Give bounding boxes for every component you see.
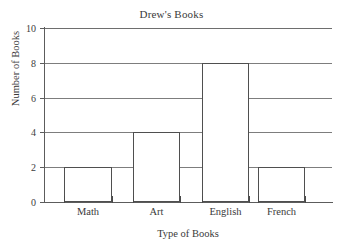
chart-title: Drew's Books: [0, 8, 343, 20]
y-axis-line: [44, 27, 45, 203]
bar-english: [202, 63, 249, 202]
x-axis-title: Type of Books: [44, 228, 332, 239]
gridline-6: [44, 98, 332, 99]
y-tick-mark-2: [40, 167, 44, 168]
y-tick-label-10: 10: [6, 23, 36, 34]
x-tick-mark-art-left: [133, 196, 134, 203]
gridline-8: [44, 63, 332, 64]
bar-chart: Drew's Books Number of Books Type of Boo…: [0, 0, 343, 248]
gridline-10: [44, 28, 332, 29]
x-tick-mark-french-left: [258, 196, 259, 203]
y-tick-mark-6: [40, 98, 44, 99]
x-tick-mark-math-right: [112, 196, 113, 203]
x-tick-mark-english-left: [202, 196, 203, 203]
y-tick-label-8: 8: [6, 57, 36, 68]
y-tick-label-2: 2: [6, 162, 36, 173]
x-category-label-math: Math: [77, 206, 99, 217]
x-category-label-english: English: [209, 206, 241, 217]
gridline-4: [44, 132, 332, 133]
y-tick-label-0: 0: [6, 197, 36, 208]
bar-art: [133, 132, 180, 202]
y-tick-mark-10: [40, 28, 44, 29]
x-tick-mark-english-right: [249, 196, 250, 203]
x-category-label-french: French: [267, 206, 296, 217]
x-tick-mark-french-right: [305, 196, 306, 203]
bar-math: [64, 167, 112, 202]
y-tick-label-6: 6: [6, 92, 36, 103]
x-category-label-art: Art: [150, 206, 164, 217]
plot-area: [44, 28, 332, 202]
y-tick-mark-0: [40, 202, 44, 203]
y-tick-mark-8: [40, 63, 44, 64]
x-tick-mark-art-right: [180, 196, 181, 203]
bar-french: [258, 167, 305, 202]
x-tick-mark-math-left: [64, 196, 65, 203]
y-tick-label-4: 4: [6, 127, 36, 138]
x-axis-line: [43, 202, 333, 203]
y-tick-mark-4: [40, 132, 44, 133]
